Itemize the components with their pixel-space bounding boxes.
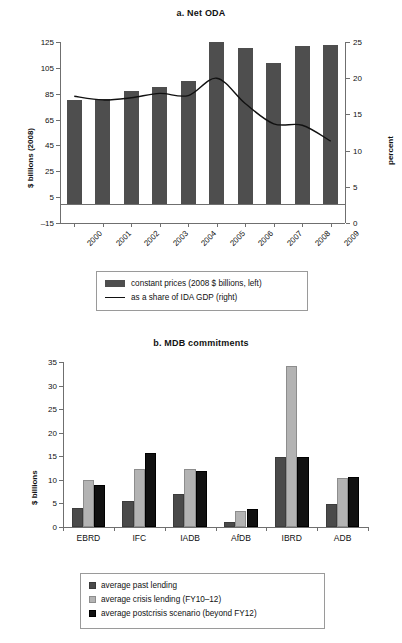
x-tick	[216, 527, 217, 531]
bar-afdb-series1	[224, 522, 235, 527]
x-tick-label: 2001	[114, 229, 133, 248]
bar-iadb-series2	[184, 469, 195, 527]
x-tick-label: 2003	[171, 229, 190, 248]
legend-label: average postcrisis scenario (beyond FY12…	[101, 609, 257, 618]
y-tick-label: 0	[31, 523, 57, 532]
x-tick	[245, 223, 246, 227]
bar-adb-series2	[337, 478, 348, 527]
x-tick	[160, 223, 161, 227]
bar-ifc-series2	[134, 469, 145, 527]
x-tick-label: 2009	[342, 229, 361, 248]
bar-ifc-series3	[145, 453, 156, 527]
dark-square-icon	[89, 582, 96, 589]
y-tick-right	[346, 114, 350, 115]
panel-mdb-commitments: b. MDB commitments $ billions average pa…	[0, 330, 402, 643]
panel-b-title: b. MDB commitments	[0, 338, 402, 348]
bar-afdb-series3	[247, 509, 258, 527]
x-tick-label: AfDB	[231, 533, 251, 543]
x-tick	[188, 223, 189, 227]
y-tick-right	[346, 42, 350, 43]
y-tick-right	[346, 187, 350, 188]
x-tick-label: EBRD	[77, 533, 101, 543]
x-tick-label: 2005	[228, 229, 247, 248]
x-tick	[165, 527, 166, 531]
y-tick-label-right: 25	[353, 38, 377, 47]
y-tick	[59, 386, 63, 387]
y-tick-label-right: 5	[353, 182, 377, 191]
x-tick-label: 2006	[256, 229, 275, 248]
panel-a-plot-area	[60, 42, 345, 223]
legend-item-constant-prices: constant prices (2008 $ billions, left)	[105, 276, 299, 290]
bar-afdb-series2	[235, 511, 246, 527]
x-tick-label: 2000	[85, 229, 104, 248]
x-tick	[63, 527, 64, 531]
bar-swatch-icon	[105, 280, 125, 287]
bar-ifc-series1	[122, 501, 133, 527]
y-tick	[59, 480, 63, 481]
x-tick-label: 2007	[285, 229, 304, 248]
y-tick-label-left: 45	[26, 141, 54, 150]
bar-iadb-series1	[173, 494, 184, 527]
legend-item-postcrisis-scenario: average postcrisis scenario (beyond FY12…	[89, 606, 316, 620]
y-tick-right	[346, 78, 350, 79]
y-tick-label: 5	[31, 499, 57, 508]
y-tick-label-right: 15	[353, 110, 377, 119]
panel-a-y-left-title: $ billions (2008)	[26, 128, 35, 188]
line-swatch-icon	[105, 297, 125, 298]
x-tick	[74, 223, 75, 227]
x-tick	[317, 527, 318, 531]
bar-ibrd-series2	[286, 366, 297, 527]
bar-iadb-series3	[196, 471, 207, 527]
panel-a-y-right-title: percent	[386, 136, 395, 165]
legend-item-past-lending: average past lending	[89, 578, 316, 592]
y-tick-label: 10	[31, 475, 57, 484]
legend-item-crisis-lending: average crisis lending (FY10–12)	[89, 592, 316, 606]
x-tick-label: 2008	[313, 229, 332, 248]
bar-ebrd-series1	[72, 508, 83, 527]
x-tick	[114, 527, 115, 531]
panel-a-title: a. Net ODA	[0, 8, 402, 18]
y-axis	[63, 362, 64, 527]
y-tick	[59, 433, 63, 434]
x-tick	[274, 223, 275, 227]
y-tick-label: 15	[31, 452, 57, 461]
legend-label: average past lending	[101, 581, 177, 590]
y-tick-label-left: –15	[26, 219, 54, 228]
x-tick	[217, 223, 218, 227]
ida-gdp-share-line	[60, 42, 345, 223]
y-tick-label-right: 10	[353, 146, 377, 155]
panel-b-legend: average past lending average crisis lend…	[80, 573, 325, 629]
y-tick-label: 35	[31, 358, 57, 367]
panel-net-oda: a. Net ODA $ billions (2008) percent yea…	[0, 0, 402, 330]
legend-item-ida-gdp-share: as a share of IDA GDP (right)	[105, 290, 299, 304]
y-tick	[59, 503, 63, 504]
y-tick	[59, 409, 63, 410]
bar-ebrd-series3	[94, 485, 105, 527]
y-tick-label-left: 25	[26, 167, 54, 176]
panel-a-legend: constant prices (2008 $ billions, left) …	[96, 271, 308, 311]
y-tick-left	[56, 223, 60, 224]
x-tick	[368, 527, 369, 531]
y-tick-label-left: 65	[26, 115, 54, 124]
x-tick	[266, 527, 267, 531]
y-tick-label-left: 5	[26, 193, 54, 202]
legend-label: constant prices (2008 $ billions, left)	[131, 279, 262, 288]
y-tick-label-right: 20	[353, 74, 377, 83]
x-tick-label: IADB	[180, 533, 200, 543]
legend-label: average crisis lending (FY10–12)	[101, 595, 221, 604]
x-tick-label: 2004	[199, 229, 218, 248]
legend-label: as a share of IDA GDP (right)	[131, 293, 237, 302]
y-tick	[59, 456, 63, 457]
x-tick-label: ADB	[334, 533, 351, 543]
y-tick-label-right: 0	[353, 219, 377, 228]
y-tick-label: 25	[31, 405, 57, 414]
x-tick	[131, 223, 132, 227]
panel-b-plot-area	[63, 362, 368, 527]
bar-adb-series3	[348, 477, 359, 527]
y-tick-label-left: 85	[26, 89, 54, 98]
bar-ebrd-series2	[83, 480, 94, 527]
y-tick-label: 20	[31, 428, 57, 437]
bar-ibrd-series1	[275, 457, 286, 527]
x-tick	[103, 223, 104, 227]
y-axis-right	[345, 42, 346, 223]
